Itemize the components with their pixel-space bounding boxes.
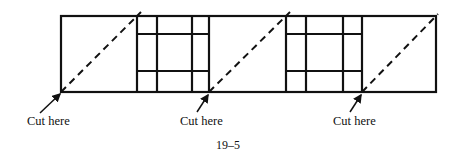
arrow-icon [197,95,208,112]
cut-line [61,12,141,92]
figure-caption: 19–5 [216,138,240,153]
cut-line [362,14,438,92]
cut-label-3: Cut here [333,114,376,129]
label-arrows [40,94,361,113]
cut-line [209,12,290,92]
cut-lines [61,12,438,92]
arrow-icon [350,95,361,112]
nine-patch-blocks [137,16,362,92]
arrow-icon [40,94,60,113]
cut-label-2: Cut here [180,114,223,129]
cut-label-1: Cut here [27,114,70,129]
